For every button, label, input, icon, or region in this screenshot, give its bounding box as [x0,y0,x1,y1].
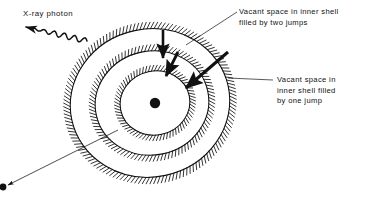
vacancy-one-jump-label-line2: inner shell filled [277,86,336,95]
nucleus [150,98,160,108]
xray-photon-label: X-ray photon [23,9,73,18]
vacancy-one-jump-label-line1: Vacant space in [277,75,336,84]
vacancy-two-jumps-label-line2: filled by two jumps [239,18,308,27]
atom-shell-diagram: X-ray photon Vacant space in inner shell… [0,0,367,201]
diagram-canvas: X-ray photon Vacant space in inner shell… [0,0,367,201]
vacancy-one-jump-label-line3: by one jump [277,96,322,105]
vacancy-two-jumps-label-line1: Vacant space in inner shell [239,7,339,16]
